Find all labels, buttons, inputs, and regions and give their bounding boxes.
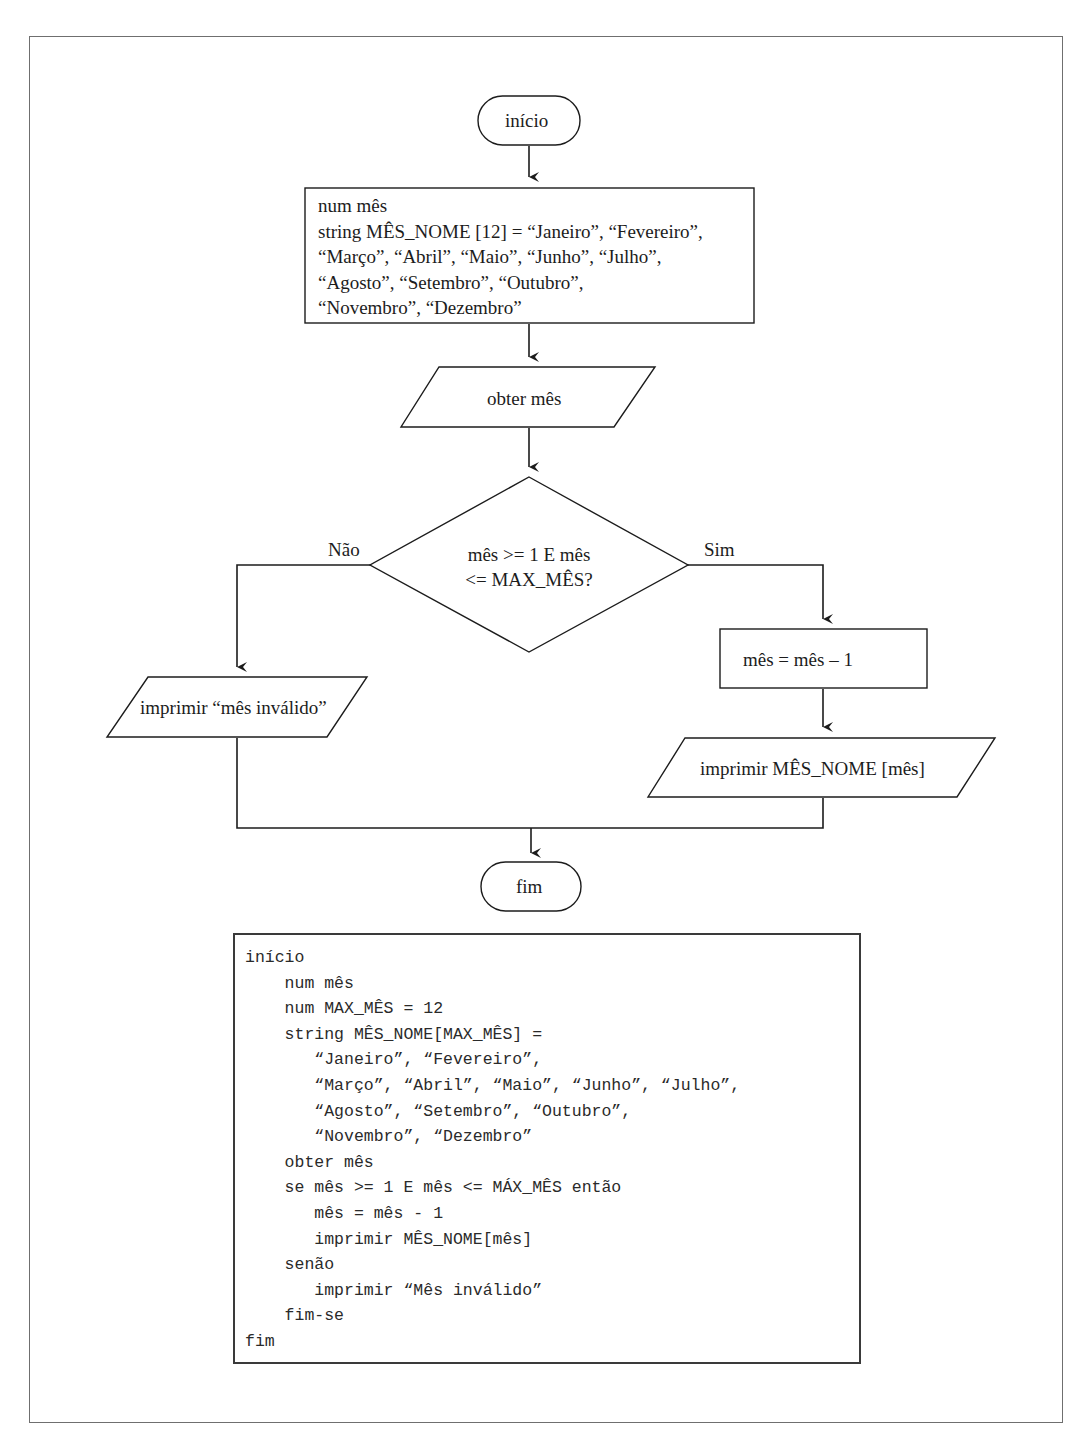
start-label: início [505, 111, 548, 130]
declaration-text: num mês string MÊS_NOME [12] = “Janeiro”… [318, 193, 703, 321]
yes-branch-label: Sim [704, 540, 735, 559]
declaration-line: num mês [318, 195, 387, 216]
declaration-line: “Novembro”, “Dezembro” [318, 297, 522, 318]
decision-line-1: mês >= 1 E mês [370, 542, 688, 567]
code-line: “Janeiro”, “Fevereiro”, [245, 1050, 542, 1069]
declaration-line: “Agosto”, “Setembro”, “Outubro”, [318, 272, 583, 293]
declaration-line: “Março”, “Abril”, “Maio”, “Junho”, “Julh… [318, 246, 661, 267]
code-line: mês = mês - 1 [245, 1204, 443, 1223]
code-line: fim-se [245, 1306, 344, 1325]
code-line: imprimir MÊS_NOME[mês] [245, 1230, 532, 1249]
declaration-line: string MÊS_NOME [12] = “Janeiro”, “Fever… [318, 221, 703, 242]
input-label: obter mês [487, 389, 561, 408]
code-line: “Agosto”, “Setembro”, “Outubro”, [245, 1102, 631, 1121]
code-line: num MAX_MÊS = 12 [245, 999, 443, 1018]
end-label: fim [516, 877, 542, 896]
pseudocode-text: início num mês num MAX_MÊS = 12 string M… [245, 945, 740, 1355]
code-line: “Novembro”, “Dezembro” [245, 1127, 532, 1146]
code-line: início [245, 948, 304, 967]
code-line: imprimir “Mês inválido” [245, 1281, 542, 1300]
print-name-label: imprimir MÊS_NOME [mês] [700, 759, 925, 778]
no-branch-label: Não [328, 540, 360, 559]
code-line: “Março”, “Abril”, “Maio”, “Junho”, “Julh… [245, 1076, 740, 1095]
code-line: senão [245, 1255, 334, 1274]
invalid-output-label: imprimir “mês inválido” [140, 698, 327, 717]
pseudocode-box: início num mês num MAX_MÊS = 12 string M… [233, 933, 861, 1364]
decision-line-2: <= MAX_MÊS? [370, 567, 688, 592]
decrement-label: mês = mês – 1 [743, 650, 853, 669]
code-line: se mês >= 1 E mês <= MÁX_MÊS então [245, 1178, 621, 1197]
decision-label: mês >= 1 E mês <= MAX_MÊS? [370, 542, 688, 592]
code-line: string MÊS_NOME[MAX_MÊS] = [245, 1025, 542, 1044]
code-line: obter mês [245, 1153, 374, 1172]
code-line: num mês [245, 974, 354, 993]
code-line: fim [245, 1332, 275, 1351]
